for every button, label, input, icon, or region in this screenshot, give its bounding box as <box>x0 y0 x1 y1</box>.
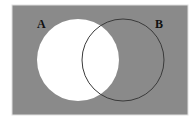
set-a-circle <box>37 19 119 101</box>
set-b-label: B <box>155 17 163 31</box>
venn-diagram: A B <box>0 0 195 121</box>
set-a-label: A <box>37 17 46 31</box>
